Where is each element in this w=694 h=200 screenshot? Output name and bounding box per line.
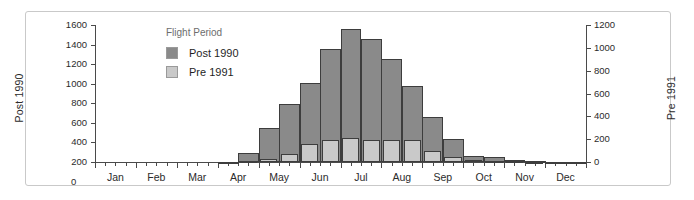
bar-pre-1991	[342, 138, 359, 162]
bar-post-1990	[218, 162, 239, 164]
x-axis-tick-minor	[289, 163, 290, 166]
x-axis-tick-minor	[433, 163, 434, 166]
x-axis-tick-minor	[371, 163, 372, 166]
bar-pre-1991	[526, 162, 543, 164]
x-axis-tick-minor	[320, 163, 321, 166]
x-axis-tick-label: Jul	[341, 171, 382, 183]
right-axis-tick-label: 600	[594, 89, 610, 99]
chart-legend: Flight Period Post 1990 Pre 1991	[166, 27, 239, 85]
x-axis-tick-major	[259, 163, 260, 168]
left-axis-tick-label: 1000	[66, 79, 87, 89]
x-axis-tick-label: Nov	[504, 171, 545, 183]
right-axis-tick	[587, 71, 591, 72]
x-axis-tick-minor	[443, 163, 444, 166]
left-axis-tick	[91, 84, 95, 85]
x-axis-tick-label: Sep	[422, 171, 463, 183]
x-axis-tick-label: May	[259, 171, 300, 183]
x-axis-tick-major	[177, 163, 178, 168]
right-axis-tick	[587, 25, 591, 26]
bar-pre-1991	[301, 144, 318, 162]
x-axis-tick-minor	[392, 163, 393, 166]
x-axis-tick-label: Jun	[300, 171, 341, 183]
left-axis-tick	[91, 123, 95, 124]
right-axis-tick-label: 0	[594, 157, 599, 167]
x-axis-tick-minor	[402, 163, 403, 166]
legend-swatch-pre-1991	[166, 66, 178, 78]
x-axis-tick-major	[381, 163, 382, 168]
bar-pre-1991	[506, 161, 523, 163]
bar-pre-1991	[363, 140, 380, 162]
bar-pre-1991	[281, 154, 298, 162]
x-axis-tick-label: Feb	[136, 171, 177, 183]
left-axis-tick	[91, 142, 95, 143]
x-axis-tick-minor	[269, 163, 270, 166]
left-axis-tick-label: 1400	[66, 40, 87, 50]
right-axis-tick	[587, 162, 591, 163]
left-axis-tick	[91, 45, 95, 46]
x-axis-tick-major	[463, 163, 464, 168]
bar-pre-1991	[444, 157, 461, 162]
legend-title: Flight Period	[166, 27, 239, 38]
x-axis-tick-minor	[105, 163, 106, 166]
x-axis-tick-minor	[453, 163, 454, 166]
left-axis-tick-label: 1600	[66, 20, 87, 30]
x-axis-tick-minor	[351, 163, 352, 166]
left-axis-tick	[91, 25, 95, 26]
x-axis-tick-minor	[494, 163, 495, 166]
bar-post-1990	[566, 162, 587, 164]
x-axis-tick-minor	[514, 163, 515, 166]
left-axis-tick-label: 800	[71, 98, 87, 108]
right-axis-tick-label: 1200	[594, 20, 615, 30]
right-axis-tick-label: 1000	[594, 43, 615, 53]
left-axis-zero-label: 0	[71, 176, 76, 187]
x-axis-tick-minor	[473, 163, 474, 166]
x-axis-tick-minor	[412, 163, 413, 166]
legend-item-post-1990: Post 1990	[166, 47, 239, 59]
left-axis-tick-label: 400	[71, 137, 87, 147]
x-axis-tick-minor	[187, 163, 188, 166]
x-axis-tick-minor	[197, 163, 198, 166]
right-axis-title: Pre 1991	[665, 58, 677, 138]
x-axis-tick-minor	[167, 163, 168, 166]
x-axis-tick-label: Dec	[545, 171, 586, 183]
bar-pre-1991	[240, 161, 257, 163]
x-axis-tick-label: Oct	[463, 171, 504, 183]
x-axis-tick-label: Jan	[95, 171, 136, 183]
right-axis-tick	[587, 48, 591, 49]
x-axis-tick-minor	[361, 163, 362, 166]
right-axis-tick	[587, 139, 591, 140]
left-axis-tick-label: 600	[71, 118, 87, 128]
x-axis-tick-minor	[330, 163, 331, 166]
x-axis-tick-minor	[310, 163, 311, 166]
bar-post-1990	[259, 128, 280, 162]
right-axis-tick-label: 200	[594, 134, 610, 144]
x-axis-tick-major	[341, 163, 342, 168]
bar-post-1990	[545, 162, 566, 164]
x-axis-tick-minor	[484, 163, 485, 166]
x-axis-tick-major	[95, 163, 96, 168]
x-axis-tick-minor	[248, 163, 249, 166]
x-axis-tick-major	[136, 163, 137, 168]
x-axis-tick-major	[586, 163, 587, 168]
x-axis-tick-label: Mar	[177, 171, 218, 183]
x-axis-tick-minor	[279, 163, 280, 166]
legend-label-post-1990: Post 1990	[189, 47, 239, 59]
left-axis-title: Post 1990	[13, 58, 25, 138]
x-axis-tick-minor	[126, 163, 127, 166]
bar-pre-1991	[322, 140, 339, 162]
right-axis-tick	[587, 94, 591, 95]
bar-pre-1991	[465, 160, 482, 162]
x-axis-tick-minor	[156, 163, 157, 166]
left-axis-tick-label: 200	[71, 157, 87, 167]
chart-figure: Post 1990 Pre 1991 160014001200100080060…	[0, 0, 694, 200]
right-axis-tick	[587, 116, 591, 117]
bar-pre-1991	[424, 151, 441, 162]
x-axis-tick-major	[422, 163, 423, 168]
right-axis-tick-label: 800	[594, 66, 610, 76]
legend-swatch-post-1990	[166, 47, 178, 59]
bar-pre-1991	[383, 140, 400, 162]
x-axis-tick-label: Aug	[381, 171, 422, 183]
x-axis-tick-minor	[208, 163, 209, 166]
bar-pre-1991	[404, 140, 421, 162]
left-axis-tick-label: 1200	[66, 59, 87, 69]
